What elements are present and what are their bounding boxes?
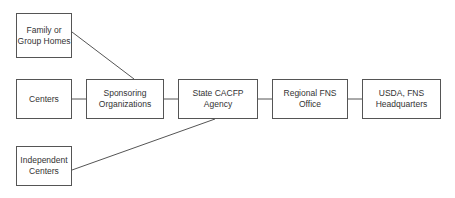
node-label-line: State CACFP — [192, 88, 243, 99]
node-centers: Centers — [16, 79, 72, 119]
node-regional-fns-office: Regional FNS Office — [272, 79, 348, 119]
org-flow-diagram: Family or Group Homes Centers Independen… — [0, 0, 455, 198]
edge-independent-state — [72, 119, 215, 170]
node-label-line: Family or — [18, 25, 71, 36]
node-family-group-homes: Family or Group Homes — [16, 13, 72, 58]
node-label-line: Group Homes — [18, 36, 71, 47]
node-label-line: Organizations — [99, 99, 151, 110]
node-label-line: Headquarters — [376, 99, 428, 110]
node-independent-centers: Independent Centers — [16, 146, 72, 186]
node-label-line: Office — [284, 99, 337, 110]
node-label-line: Sponsoring — [99, 88, 151, 99]
node-label-line: Centers — [29, 94, 59, 105]
node-sponsoring-organizations: Sponsoring Organizations — [86, 79, 164, 119]
node-label-line: Centers — [20, 166, 67, 177]
node-usda-fns-headquarters: USDA, FNS Headquarters — [362, 79, 441, 119]
node-label-line: Regional FNS — [284, 88, 337, 99]
node-state-cacfp-agency: State CACFP Agency — [178, 79, 258, 119]
node-label-line: Independent — [20, 155, 67, 166]
edge-family-sponsoring — [72, 32, 134, 79]
node-label-line: Agency — [192, 99, 243, 110]
node-label-line: USDA, FNS — [376, 88, 428, 99]
